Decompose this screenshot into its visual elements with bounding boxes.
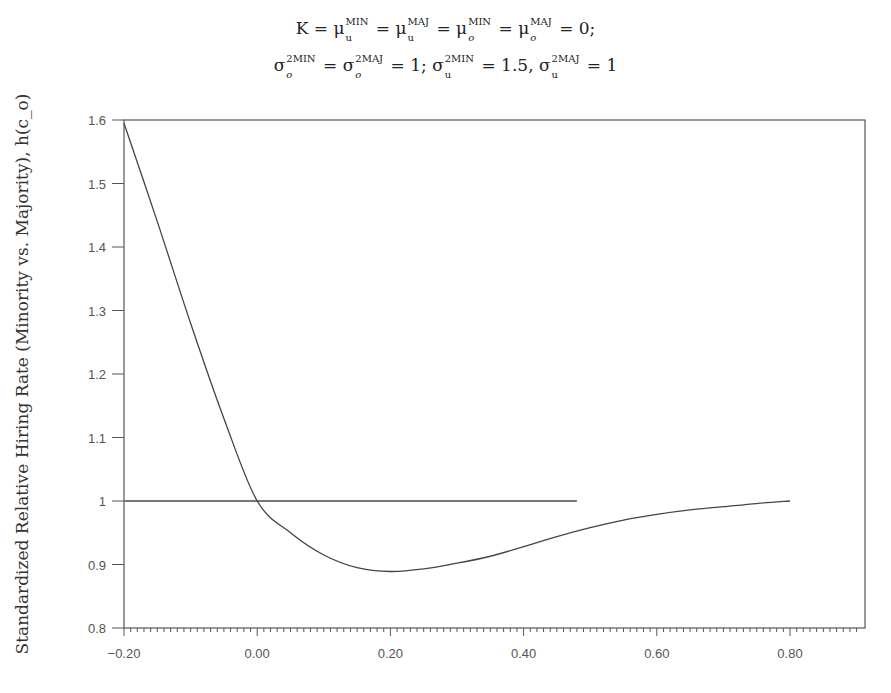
y-tick-label: 1.3 — [88, 304, 106, 319]
plot-area-frame — [124, 120, 865, 628]
y-tick-label: 0.9 — [88, 558, 106, 573]
y-axis: 0.80.911.11.21.31.41.51.6 — [88, 113, 124, 636]
y-tick-label: 1 — [99, 494, 106, 509]
series-line-h-co — [124, 123, 790, 571]
y-tick-label: 1.5 — [88, 177, 106, 192]
y-tick-label: 1.4 — [88, 240, 106, 255]
x-axis: −0.200.000.200.400.600.80 — [108, 628, 857, 661]
y-tick-label: 0.8 — [88, 621, 106, 636]
line-chart: 0.80.911.11.21.31.41.51.6 −0.200.000.200… — [0, 0, 891, 693]
x-tick-label: 0.80 — [777, 646, 802, 661]
y-tick-label: 1.1 — [88, 431, 106, 446]
x-tick-label: 0.00 — [245, 646, 270, 661]
x-tick-label: −0.20 — [108, 646, 141, 661]
x-tick-label: 0.20 — [378, 646, 403, 661]
y-tick-label: 1.6 — [88, 113, 106, 128]
y-tick-label: 1.2 — [88, 367, 106, 382]
x-tick-label: 0.40 — [511, 646, 536, 661]
x-tick-label: 0.60 — [644, 646, 669, 661]
